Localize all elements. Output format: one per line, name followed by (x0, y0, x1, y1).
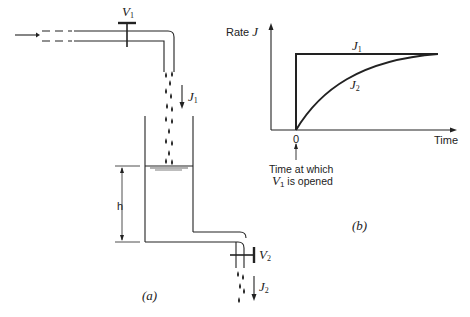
y-axis-label: Rate J (226, 26, 258, 38)
x-origin-tick: 0 (293, 133, 299, 145)
droplets-icon (165, 71, 245, 303)
curve-j2 (296, 54, 438, 130)
diagram-canvas (0, 0, 470, 317)
curve-j1-label: J1 (352, 40, 362, 56)
curve-j1 (296, 54, 438, 130)
annotation-line2: V1 is opened (272, 175, 333, 191)
valve-v1-label: V1 (122, 6, 134, 22)
height-label: h (117, 200, 123, 212)
caption-a: (a) (142, 290, 157, 302)
outlet-pipe (145, 242, 244, 268)
flow-j2-label: J2 (259, 281, 269, 297)
curve-j2-label: J2 (350, 79, 360, 95)
caption-b: (b) (352, 220, 367, 232)
valve-v2-label: V2 (259, 249, 271, 265)
inlet-pipe (74, 31, 174, 72)
x-axis-label: Time (434, 134, 458, 146)
flow-j1-label: J1 (188, 91, 198, 107)
